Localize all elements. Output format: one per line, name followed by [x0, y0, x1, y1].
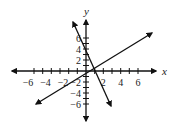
svg-text:−6: −6: [70, 99, 81, 110]
x-axis-label: x: [161, 65, 167, 77]
svg-text:−2: −2: [58, 77, 69, 88]
svg-text:−4: −4: [40, 77, 51, 88]
y-axis-label: y: [83, 5, 89, 17]
svg-text:2: 2: [76, 55, 81, 66]
coordinate-plane: −6 −4 −2 2 4 6 6 4 2 −2 −4 −6 x y: [0, 0, 170, 126]
svg-text:−6: −6: [23, 77, 34, 88]
x-tick-labels: −6 −4 −2 2 4 6: [23, 77, 141, 88]
svg-text:−4: −4: [70, 88, 81, 99]
svg-text:4: 4: [118, 77, 123, 88]
svg-text:4: 4: [76, 44, 81, 55]
svg-text:6: 6: [136, 77, 141, 88]
